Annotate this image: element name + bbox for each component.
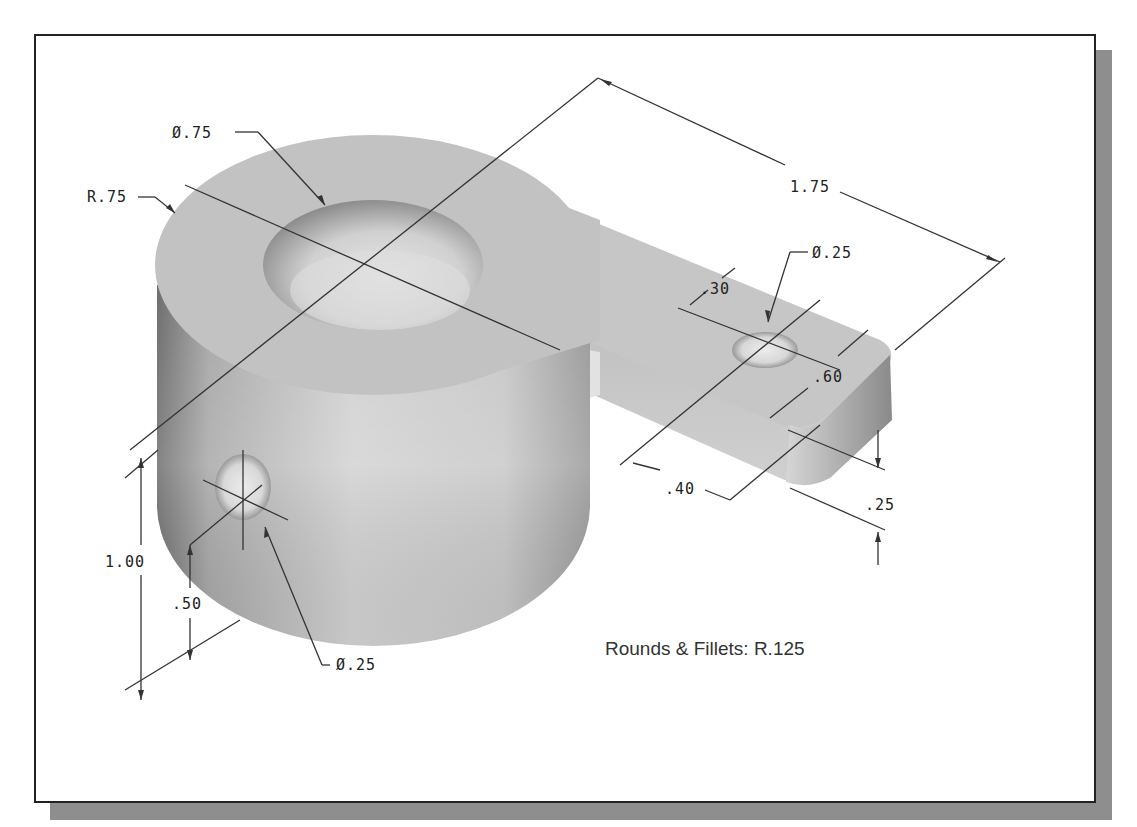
- dim-arm-thickness: .25: [865, 496, 895, 514]
- dim-side-hole-height: .50: [172, 595, 202, 613]
- dim-arm-width: .60: [813, 368, 843, 386]
- dim-bore-diameter: Ø.75: [172, 124, 212, 142]
- dim-arm-hole-offset: .30: [700, 280, 730, 298]
- dim-overall-length: 1.75: [790, 178, 830, 196]
- isometric-part-drawing: Ø.75 R.75 1.75 Ø.25 .30 .60 .40 .25 1.00…: [0, 0, 1137, 827]
- cylinder-boss: [155, 135, 600, 646]
- dim-side-hole-diameter: Ø.25: [336, 656, 376, 674]
- dim-boss-radius: R.75: [87, 188, 127, 206]
- dim-arm-hole-diameter: Ø.25: [812, 244, 852, 262]
- fillet-note: Rounds & Fillets: R.125: [605, 638, 805, 659]
- dim-arm-hole-position: .40: [665, 480, 695, 498]
- dim-overall-height: 1.00: [105, 553, 145, 571]
